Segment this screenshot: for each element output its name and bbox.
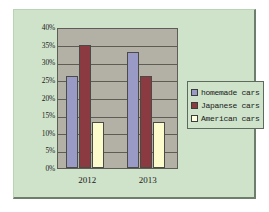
bar-2013-japanese xyxy=(140,76,152,168)
legend-label: Japanese cars xyxy=(201,101,260,110)
y-axis-tick-label: 40% xyxy=(29,24,55,32)
bar-2012-japanese xyxy=(79,45,91,168)
y-axis-tick-label: 0% xyxy=(29,165,55,173)
legend-swatch-icon xyxy=(191,102,198,109)
y-axis-tick-label: 35% xyxy=(29,42,55,50)
y-axis-tick-label: 30% xyxy=(29,59,55,67)
y-axis: 0%5%10%15%20%25%30%35%40% xyxy=(24,28,55,169)
gridline xyxy=(58,64,177,65)
bar-2012-american xyxy=(92,122,104,168)
y-axis-tick-label: 20% xyxy=(29,95,55,103)
y-axis-tick-label: 5% xyxy=(29,147,55,155)
x-axis: 20122013 xyxy=(57,172,178,190)
x-axis-tick-label: 2012 xyxy=(57,175,118,186)
legend-swatch-icon xyxy=(191,115,198,122)
legend-item-american[interactable]: American cars xyxy=(191,112,260,124)
bar-2013-american xyxy=(153,122,165,168)
legend-label: homemade cars xyxy=(201,88,260,97)
y-axis-tick-label: 15% xyxy=(29,112,55,120)
gridline xyxy=(58,46,177,47)
plot-area xyxy=(57,28,178,169)
legend-item-japanese[interactable]: Japanese cars xyxy=(191,99,260,111)
legend-label: American cars xyxy=(201,114,260,123)
y-axis-tick-label: 25% xyxy=(29,77,55,85)
legend-swatch-icon xyxy=(191,89,198,96)
x-axis-tick-label: 2013 xyxy=(118,175,179,186)
legend-item-homemade[interactable]: homemade cars xyxy=(191,86,260,98)
bar-2012-homemade xyxy=(66,76,78,168)
chart-panel: 0%5%10%15%20%25%30%35%40% 20122013 homem… xyxy=(13,9,256,199)
y-axis-tick-label: 10% xyxy=(29,130,55,138)
chart-screenshot: 0%5%10%15%20%25%30%35%40% 20122013 homem… xyxy=(0,0,269,212)
bar-2013-homemade xyxy=(127,52,139,168)
chart-legend: homemade cars Japanese cars American car… xyxy=(187,81,264,129)
